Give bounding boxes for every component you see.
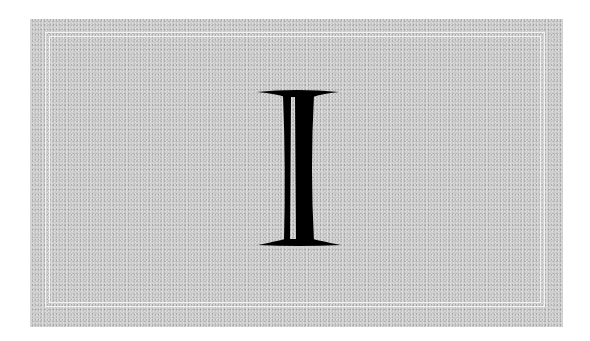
letter-i-glyph [255, 89, 345, 249]
letter-i-icon [255, 89, 345, 249]
textured-card [30, 19, 563, 327]
